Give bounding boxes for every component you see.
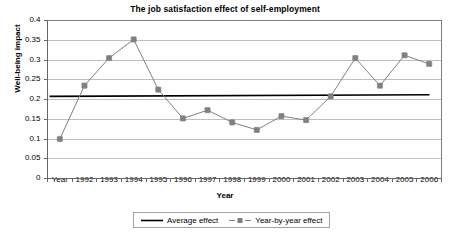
data-point-marker <box>57 136 62 141</box>
data-point-marker <box>230 120 235 125</box>
chart-legend: Average effect Year-by-year effect <box>133 212 330 228</box>
data-point-marker <box>254 127 259 132</box>
data-point-marker <box>156 87 161 92</box>
legend-item-average-effect: Average effect <box>141 216 218 225</box>
year-by-year-effect-line <box>60 39 429 139</box>
data-point-marker <box>106 55 111 60</box>
chart-container: The job satisfaction effect of self-empl… <box>0 0 450 236</box>
data-point-marker <box>328 94 333 99</box>
data-point-marker <box>279 113 284 118</box>
data-point-marker <box>131 37 136 42</box>
legend-solid-line-icon <box>141 216 163 225</box>
data-point-marker <box>427 61 432 66</box>
average-effect-line <box>50 95 430 97</box>
data-point-marker <box>377 83 382 88</box>
data-point-marker <box>353 55 358 60</box>
data-point-marker <box>303 117 308 122</box>
gridlines <box>48 21 442 179</box>
legend-marker-line-icon <box>229 216 251 225</box>
data-point-marker <box>205 108 210 113</box>
plot-area <box>0 0 450 236</box>
data-point-marker <box>82 83 87 88</box>
legend-label-year-by-year-effect: Year-by-year effect <box>255 216 322 225</box>
data-point-marker <box>402 53 407 58</box>
legend-label-average-effect: Average effect <box>167 216 218 225</box>
data-point-marker <box>180 116 185 121</box>
legend-item-year-by-year-effect: Year-by-year effect <box>229 216 322 225</box>
